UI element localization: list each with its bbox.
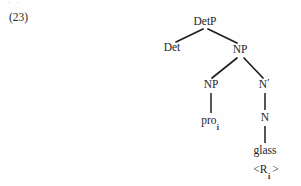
branch-detp-det: [176, 29, 203, 42]
tree-node-np-upper: NP: [233, 44, 248, 56]
tree-node-pro-label: pro: [201, 114, 216, 126]
branch-np-np: [212, 58, 237, 78]
figure-page: · · (23) DetP Det NP: [0, 0, 301, 186]
tree-node-np-upper-label: NP: [233, 43, 248, 55]
tree-branches: [0, 0, 301, 186]
tree-node-pro: proi: [201, 115, 219, 127]
tree-node-n: N: [261, 112, 269, 124]
tree-node-pro-subscript: i: [217, 123, 219, 132]
tree-node-n-bar: N′: [259, 79, 270, 91]
tree-node-detp: DetP: [194, 16, 217, 28]
syntax-tree: DetP Det NP NP N′ proi N glass: [0, 0, 301, 186]
tree-node-n-label: N: [261, 111, 269, 123]
branch-np-nbar: [244, 58, 263, 78]
tree-node-det-label: Det: [164, 41, 181, 53]
tree-node-r-index: <Ri>: [253, 164, 279, 176]
tree-node-detp-label: DetP: [194, 15, 217, 27]
prime-mark-icon: ′: [267, 76, 269, 88]
tree-node-np-inner: NP: [204, 79, 219, 91]
tree-node-det: Det: [164, 42, 181, 54]
tree-node-n-bar-label: N: [259, 78, 267, 90]
tree-node-glass: glass: [254, 145, 277, 157]
tree-node-np-inner-label: NP: [204, 78, 219, 90]
tree-node-r-index-open: <R: [253, 163, 268, 175]
tree-node-r-index-subscript: i: [268, 172, 270, 181]
branch-detp-np: [208, 29, 237, 43]
tree-node-r-index-close: >: [272, 163, 279, 175]
tree-node-glass-label: glass: [254, 144, 277, 156]
